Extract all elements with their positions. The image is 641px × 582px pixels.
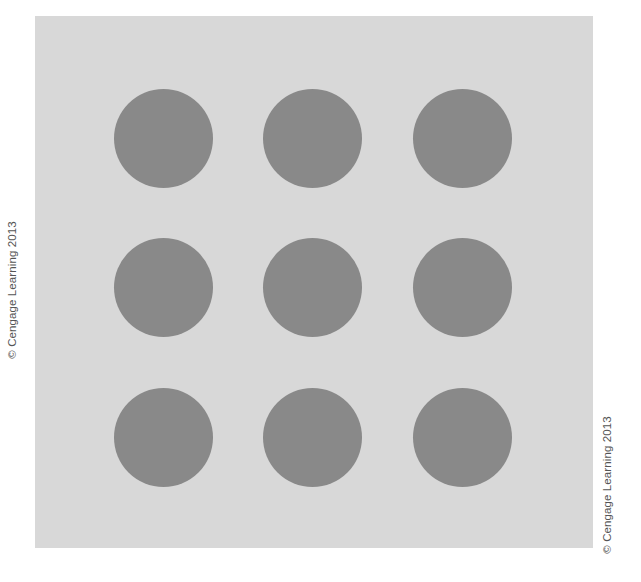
dot-r2-c3 bbox=[413, 238, 512, 337]
dot-r1-c3 bbox=[413, 89, 512, 188]
dot-r3-c3 bbox=[413, 388, 512, 487]
dot-r2-c2 bbox=[263, 238, 362, 337]
dot-r2-c1 bbox=[114, 238, 213, 337]
dot-r3-c1 bbox=[114, 388, 213, 487]
dot-r3-c2 bbox=[263, 388, 362, 487]
dot-r1-c2 bbox=[263, 89, 362, 188]
dot-grid-panel bbox=[35, 16, 593, 548]
copyright-credit-left: © Cengage Learning 2013 bbox=[6, 221, 18, 358]
copyright-credit-right: © Cengage Learning 2013 bbox=[601, 416, 613, 553]
dot-r1-c1 bbox=[114, 89, 213, 188]
